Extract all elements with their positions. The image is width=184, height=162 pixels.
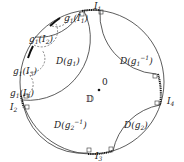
label-I4: I4	[166, 96, 175, 107]
label-I1: I1	[93, 1, 101, 12]
label-g1-I4: g1(I4)	[10, 88, 35, 99]
geodesic-D-g2-inverse	[24, 108, 88, 153]
label-D-g2: D(g2)	[123, 120, 148, 131]
right-angle-marks	[24, 10, 159, 152]
label-D-g1-inverse: D(g1−1)	[119, 54, 153, 67]
label-g1-I2: g1(I2)	[29, 34, 54, 45]
origin-label: 0	[102, 77, 108, 87]
label-g1-I3: g1(I3)	[13, 66, 38, 77]
interval-I4	[158, 74, 161, 105]
label-D-g2-inverse: D(g2−1)	[53, 118, 87, 131]
hyperbolic-disk-diagram: 0 𝔻 I1 I2 I3 I4 g1(I1) g1(I2) g1(I3) g1(…	[0, 0, 184, 162]
label-g1-I1: g1(I1)	[64, 13, 89, 24]
unit-disk-boundary	[20, 10, 164, 154]
label-D-g1: D(g1)	[55, 56, 80, 67]
origin-point	[98, 89, 101, 92]
label-I2: I2	[9, 102, 18, 113]
disk-label: 𝔻	[86, 94, 94, 104]
